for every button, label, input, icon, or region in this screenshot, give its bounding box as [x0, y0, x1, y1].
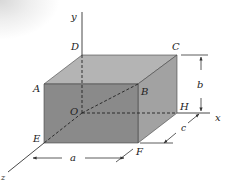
dimension-a-tick-right [116, 149, 133, 162]
dimension-c-arrow-down [164, 133, 176, 143]
label-vertex-B: B [140, 86, 148, 97]
label-vertex-A: A [32, 83, 40, 94]
box-diagram: y x z D C A B O H E F a b c [0, 0, 226, 181]
label-x-axis: x [215, 112, 221, 123]
label-dimension-b: b [197, 79, 203, 90]
z-axis [8, 143, 44, 172]
label-vertex-F: F [135, 146, 144, 157]
dimension-c-arrow-up [188, 114, 199, 123]
label-vertex-C: C [172, 41, 180, 52]
label-vertex-H: H [179, 101, 189, 112]
label-z-axis: z [0, 173, 6, 181]
label-vertex-O: O [70, 106, 78, 117]
label-dimension-a: a [70, 152, 76, 163]
front-face [44, 84, 138, 143]
label-vertex-E: E [32, 133, 41, 144]
label-vertex-D: D [70, 41, 79, 52]
label-dimension-c: c [181, 123, 186, 133]
label-y-axis: y [70, 11, 77, 22]
